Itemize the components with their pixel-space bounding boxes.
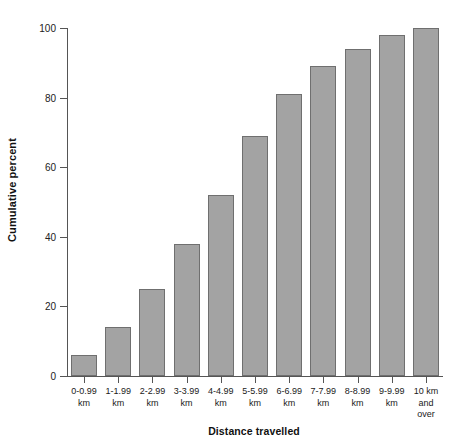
- bar: [174, 244, 200, 376]
- x-axis-tick-label-line: km: [272, 398, 306, 410]
- x-axis-tick-label: 2-2.99km: [135, 386, 169, 409]
- x-axis-tick-label: 4-4.99km: [204, 386, 238, 409]
- x-axis-tick-label: 3-3.99km: [170, 386, 204, 409]
- cumulative-percent-bar-chart: Cumulative percent 020406080100 0-0.99km…: [0, 0, 452, 448]
- x-axis-tick: [392, 377, 393, 383]
- x-axis-tick-label-line: 0-0.99: [67, 386, 101, 398]
- x-axis-tick-label: 0-0.99km: [67, 386, 101, 409]
- bar: [105, 327, 131, 376]
- x-axis-tick-label-line: 10 km: [409, 386, 443, 398]
- bar-series: [67, 28, 443, 376]
- x-axis-tick-label-line: 7-7.99: [306, 386, 340, 398]
- y-axis-tick: [60, 167, 67, 168]
- x-axis-tick-label: 7-7.99km: [306, 386, 340, 409]
- x-axis-tick-label-line: 3-3.99: [170, 386, 204, 398]
- x-axis-tick-label-line: over: [409, 409, 443, 421]
- x-axis-tick-label-line: km: [238, 398, 272, 410]
- y-axis-tick-label: 80: [45, 92, 56, 103]
- y-axis-tick: [60, 98, 67, 99]
- y-axis-title-text: Cumulative percent: [6, 138, 18, 242]
- x-axis-tick-label: 8-8.99km: [340, 386, 374, 409]
- x-axis-tick: [152, 377, 153, 383]
- x-axis-tick-label-line: km: [375, 398, 409, 410]
- x-axis-tick-label-line: 6-6.99: [272, 386, 306, 398]
- y-axis-tick-label: 40: [45, 231, 56, 242]
- x-axis-tick-label-line: 8-8.99: [340, 386, 374, 398]
- x-axis-tick: [118, 377, 119, 383]
- plot-area: 020406080100: [67, 28, 443, 376]
- x-axis-tick: [289, 377, 290, 383]
- y-axis-tick-label: 100: [39, 23, 56, 34]
- x-axis-tick-label: 5-5.99km: [238, 386, 272, 409]
- x-axis-tick-label-line: km: [306, 398, 340, 410]
- x-axis-tick: [358, 377, 359, 383]
- y-axis-title: Cumulative percent: [0, 0, 24, 380]
- x-axis-tick-label-line: 9-9.99: [375, 386, 409, 398]
- bar: [276, 94, 302, 376]
- y-axis-tick-label: 20: [45, 301, 56, 312]
- x-axis-tick-label-line: km: [67, 398, 101, 410]
- x-axis-tick-label: 10 kmandover: [409, 386, 443, 421]
- y-axis-tick: [60, 28, 67, 29]
- y-axis-tick: [60, 376, 67, 377]
- bar: [345, 49, 371, 376]
- y-axis-tick: [60, 306, 67, 307]
- x-axis-tick: [187, 377, 188, 383]
- x-axis-tick-label: 1-1.99km: [101, 386, 135, 409]
- x-axis-tick-label-line: km: [101, 398, 135, 410]
- bar: [242, 136, 268, 376]
- x-axis-tick: [426, 377, 427, 383]
- x-axis-tick-labels: 0-0.99km1-1.99km2-2.99km3-3.99km4-4.99km…: [67, 386, 443, 426]
- y-axis-tick-label: 0: [50, 371, 56, 382]
- x-axis-tick: [255, 377, 256, 383]
- x-axis-tick-label-line: 5-5.99: [238, 386, 272, 398]
- x-axis-tick: [221, 377, 222, 383]
- y-axis-tick: [60, 237, 67, 238]
- x-axis-tick-label: 9-9.99km: [375, 386, 409, 409]
- bar: [71, 355, 97, 376]
- bar: [310, 66, 336, 376]
- y-axis-tick-label: 60: [45, 162, 56, 173]
- x-axis-tick-label-line: 1-1.99: [101, 386, 135, 398]
- x-axis-tick: [323, 377, 324, 383]
- x-axis-tick-label-line: 2-2.99: [135, 386, 169, 398]
- x-axis-tick: [84, 377, 85, 383]
- x-axis-tick-label-line: km: [340, 398, 374, 410]
- x-axis-title: Distance travelled: [64, 425, 444, 437]
- x-axis-tick-label-line: and: [409, 398, 443, 410]
- x-axis-tick-label-line: km: [204, 398, 238, 410]
- bar: [208, 195, 234, 376]
- bar: [139, 289, 165, 376]
- x-axis-tick-label-line: km: [170, 398, 204, 410]
- x-axis-tick-label: 6-6.99km: [272, 386, 306, 409]
- x-axis-tick-label-line: km: [135, 398, 169, 410]
- bar: [413, 28, 439, 376]
- bar: [379, 35, 405, 376]
- x-axis-tick-label-line: 4-4.99: [204, 386, 238, 398]
